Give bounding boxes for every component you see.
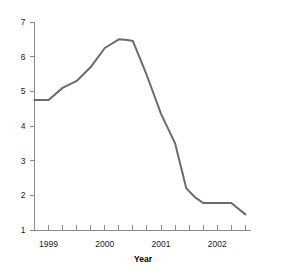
line-chart: 1234567 1999200020012002 Year xyxy=(0,0,283,277)
y-tick-labels: 1234567 xyxy=(21,17,26,235)
y-tick-label: 2 xyxy=(21,190,26,200)
y-tick-label: 1 xyxy=(21,225,26,235)
x-tick-labels: 1999200020012002 xyxy=(39,239,227,249)
data-series-line xyxy=(35,39,246,214)
x-tick-label: 2001 xyxy=(152,239,171,249)
x-tick-label: 2002 xyxy=(208,239,227,249)
x-tick-label: 1999 xyxy=(39,239,58,249)
y-tick-label: 5 xyxy=(21,86,26,96)
y-tick-label: 6 xyxy=(21,52,26,62)
x-axis-title: Year xyxy=(134,254,153,264)
chart-canvas: 1234567 1999200020012002 Year xyxy=(0,0,283,277)
x-tick-marks xyxy=(35,225,246,230)
y-axis: 1234567 xyxy=(21,17,35,235)
y-tick-label: 3 xyxy=(21,156,26,166)
x-tick-label: 2000 xyxy=(95,239,114,249)
y-tick-label: 7 xyxy=(21,17,26,27)
y-tick-label: 4 xyxy=(21,121,26,131)
y-tick-marks xyxy=(30,22,35,230)
x-axis: 1999200020012002 xyxy=(35,225,252,249)
